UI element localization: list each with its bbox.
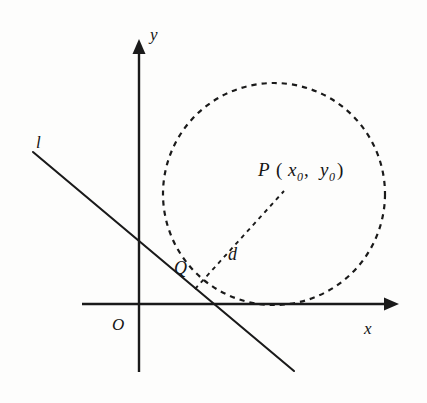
y-axis-arrowhead <box>133 39 146 54</box>
point-p-x-var: x <box>287 159 297 180</box>
point-p-label-group: P ( x 0 , y 0 ) <box>257 159 343 184</box>
point-p-x-subscript: 0 <box>297 170 303 184</box>
y-axis-label: y <box>148 25 158 44</box>
x-axis-label: x <box>363 319 372 338</box>
distance-d-label: d <box>228 244 238 264</box>
point-p-open-paren: ( <box>276 159 282 181</box>
line-l-label: l <box>36 133 41 152</box>
point-p-label: P <box>257 159 270 180</box>
point-p-y-var: y <box>318 159 329 180</box>
geometry-diagram: x y O l Q d P ( x 0 , y 0 ) <box>0 0 427 403</box>
distance-segment-d <box>195 191 284 289</box>
origin-label: O <box>112 315 124 334</box>
point-p-y-subscript: 0 <box>329 170 335 184</box>
point-q-label: Q <box>174 258 187 278</box>
point-p-close-paren: ) <box>337 159 343 181</box>
geometry-canvas: x y O l Q d P ( x 0 , y 0 ) <box>0 0 427 403</box>
dashed-circle-around-p <box>163 83 385 305</box>
x-axis-arrowhead <box>384 298 399 311</box>
point-p-comma: , <box>304 159 309 180</box>
